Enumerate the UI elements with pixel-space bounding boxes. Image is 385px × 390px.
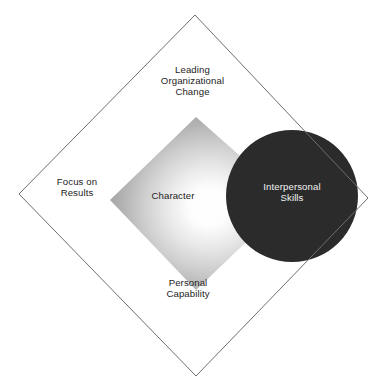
label-line: Interpersonal (232, 181, 352, 192)
label-character: Character (118, 190, 228, 201)
label-line: Character (118, 190, 228, 201)
label-line: Organizational (0, 75, 385, 86)
label-line: Personal (128, 277, 248, 288)
label-line: Skills (232, 192, 352, 203)
label-interpersonal-skills: Interpersonal Skills (232, 181, 352, 203)
leadership-diagram-canvas: Leading Organizational Change Focus on R… (0, 0, 385, 390)
label-line: Capability (128, 288, 248, 299)
label-personal-capability: Personal Capability (128, 277, 248, 299)
label-line: Leading (0, 64, 385, 75)
label-line: Results (22, 187, 132, 198)
label-line: Focus on (22, 176, 132, 187)
label-leading-organizational-change: Leading Organizational Change (0, 64, 385, 97)
label-focus-on-results: Focus on Results (22, 176, 132, 198)
label-line: Change (0, 86, 385, 97)
